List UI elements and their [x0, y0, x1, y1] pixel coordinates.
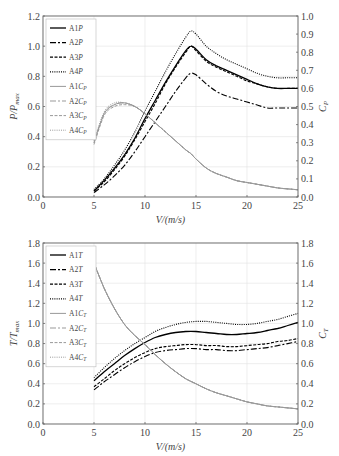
- bottom-y-right-tick-label: 0.6: [301, 358, 314, 369]
- top-y-tick-label: 0.8: [28, 71, 41, 82]
- bottom-x-tick-label: 20: [242, 427, 252, 438]
- thrust-chart: 05101520250.00.20.40.60.81.01.21.41.61.8…: [0, 228, 339, 456]
- legend-entry: A3T: [69, 280, 83, 289]
- bottom-y-right-tick-label: 1.0: [301, 318, 314, 329]
- top-y-tick-label: 0.2: [28, 161, 41, 172]
- top-y-tick-label: 1.0: [28, 41, 41, 52]
- bottom-y-tick-label: 0.6: [28, 358, 41, 369]
- bottom-y-right-tick-label: 1.8: [301, 238, 314, 249]
- bottom-y-right-tick-label: 0.2: [301, 398, 314, 409]
- bottom-y-tick-label: 0.2: [28, 398, 41, 409]
- top-y-tick-label: 0.4: [28, 131, 41, 142]
- top-x-tick-label: 5: [92, 200, 97, 211]
- top-y-right-tick-label: 0.5: [301, 101, 314, 112]
- bottom-x-tick-label: 15: [191, 427, 201, 438]
- bottom-y-tick-label: 1.8: [28, 238, 41, 249]
- bottom-y-right-tick-label: 0.4: [301, 378, 314, 389]
- bottom-y-right-tick-label: 1.6: [301, 258, 314, 269]
- bottom-y-right-tick-label: 0.8: [301, 338, 314, 349]
- top-x-tick-label: 10: [140, 200, 150, 211]
- bottom-y-tick-label: 1.6: [28, 258, 41, 269]
- top-y-right-tick-label: 0.3: [301, 137, 314, 148]
- top-y-right-tick-label: 0.0: [301, 192, 314, 203]
- bottom-y-right-tick-label: 0.0: [301, 419, 314, 430]
- top-x-axis-label: V/(m/s): [156, 214, 186, 226]
- bottom-y-tick-label: 0.4: [28, 378, 41, 389]
- top-y-right-tick-label: 0.2: [301, 155, 314, 166]
- legend-entry: A2T: [69, 265, 83, 274]
- top-y-right-tick-label: 0.7: [301, 65, 314, 76]
- top-y-axis-label: P/Pmax: [8, 92, 21, 121]
- legend-entry: A3P: [69, 53, 83, 62]
- bottom-x-tick-label: 0: [41, 427, 46, 438]
- top-y-right-axis-label: CP: [317, 100, 330, 112]
- bottom-y-tick-label: 1.2: [28, 298, 41, 309]
- top-plot-area: 05101520250.00.20.40.60.81.01.20.00.10.2…: [8, 11, 330, 227]
- legend-entry: A2P: [69, 38, 83, 47]
- legend-entry: A4T: [69, 294, 83, 303]
- legend-entry: A4P: [69, 67, 83, 76]
- top-y-right-tick-label: 0.6: [301, 83, 314, 94]
- bottom-y-tick-label: 0.0: [28, 419, 41, 430]
- legend-entry: A1T: [69, 251, 83, 260]
- top-y-right-tick-label: 0.1: [301, 173, 314, 184]
- bottom-y-tick-label: 1.4: [28, 278, 41, 289]
- top-legend: A1PA2PA3PA4PA1CPA2CPA3CPA4CP: [46, 19, 96, 140]
- bottom-plot-area: 05101520250.00.20.40.60.81.01.21.41.61.8…: [8, 238, 330, 454]
- top-y-tick-label: 1.2: [28, 11, 41, 22]
- legend-entry: A1P: [69, 24, 83, 33]
- bottom-y-axis-label: T/Tmax: [8, 320, 21, 346]
- bottom-legend: A1TA2TA3TA4TA1CTA2CTA3CTA4CT: [46, 246, 96, 367]
- top-x-tick-label: 20: [242, 200, 252, 211]
- top-y-right-tick-label: 1.0: [301, 11, 314, 22]
- top-x-tick-label: 15: [191, 200, 201, 211]
- bottom-y-right-tick-label: 1.2: [301, 298, 314, 309]
- bottom-x-axis-label: V/(m/s): [156, 441, 186, 453]
- bottom-x-tick-label: 10: [140, 427, 150, 438]
- top-y-right-tick-label: 0.4: [301, 119, 314, 130]
- top-y-tick-label: 0.6: [28, 101, 41, 112]
- top-y-right-tick-label: 0.8: [301, 47, 314, 58]
- bottom-y-right-axis-label: CT: [317, 327, 330, 339]
- bottom-y-tick-label: 0.8: [28, 338, 41, 349]
- bottom-x-tick-label: 5: [92, 427, 97, 438]
- power-chart-svg: 05101520250.00.20.40.60.81.01.20.00.10.2…: [0, 0, 339, 228]
- bottom-y-right-tick-label: 1.4: [301, 278, 314, 289]
- power-chart: 05101520250.00.20.40.60.81.01.20.00.10.2…: [0, 0, 339, 228]
- top-y-tick-label: 0.0: [28, 192, 41, 203]
- thrust-chart-svg: 05101520250.00.20.40.60.81.01.21.41.61.8…: [0, 228, 339, 456]
- top-y-right-tick-label: 0.9: [301, 29, 314, 40]
- bottom-y-tick-label: 1.0: [28, 318, 41, 329]
- top-x-tick-label: 0: [41, 200, 46, 211]
